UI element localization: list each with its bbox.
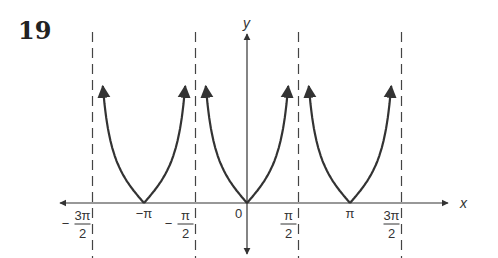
tick-label-denominator: 2 [182, 226, 189, 241]
x-axis-label: x [459, 195, 468, 211]
curve-branch [350, 86, 391, 203]
tick-label-numerator: π [181, 208, 190, 223]
tick-label-numerator: 3π [74, 208, 90, 223]
curve-branch [206, 86, 247, 203]
tick-label-denominator: 2 [388, 226, 395, 241]
tick-label-numerator: 3π [383, 208, 399, 223]
curve-branch [309, 86, 350, 203]
tick-label: −π [136, 206, 153, 221]
tick-label-denominator: 2 [285, 226, 292, 241]
y-axis-label: y [242, 15, 251, 31]
tick-label-numerator: π [284, 208, 293, 223]
tick-label-denominator: 2 [79, 226, 86, 241]
curve-branch [144, 86, 185, 203]
curve-branch [103, 86, 144, 203]
abs-tan-graph: xy 03π2−−ππ2−π2π3π2 [0, 0, 498, 258]
origin-label: 0 [235, 206, 242, 221]
tick-label: π [346, 206, 355, 221]
tick-label-sign: − [62, 216, 70, 231]
tick-label-sign: − [165, 216, 173, 231]
curve-branch [247, 86, 288, 203]
